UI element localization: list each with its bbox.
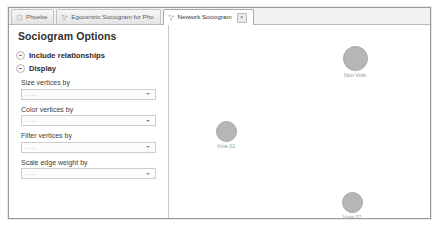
section-label: Include relationships: [29, 51, 105, 60]
chevron-down-icon[interactable]: [144, 90, 152, 99]
tab-phoebe[interactable]: Phoebe: [11, 9, 54, 24]
chevron-down-icon[interactable]: [144, 143, 152, 152]
field-scale-edge-weight-by: Scale edge weight by ....: [9, 159, 168, 180]
network-icon: [168, 14, 175, 21]
node-circle[interactable]: [343, 46, 368, 71]
sociogram-options-sidebar: Sociogram Options Include relationships …: [9, 25, 169, 218]
section-label: Display: [29, 64, 56, 73]
tab-label: Network Sociogram: [178, 14, 232, 20]
scale-edge-weight-select[interactable]: ....: [21, 168, 156, 179]
application-window: Phoebe Egocentric Sociogram for Pho Netw…: [8, 7, 431, 219]
tab-bar: Phoebe Egocentric Sociogram for Pho Netw…: [9, 8, 430, 25]
select-value: ....: [26, 117, 37, 124]
color-vertices-select[interactable]: ....: [21, 115, 156, 126]
graph-node[interactable]: Vote 02: [342, 192, 363, 218]
close-icon[interactable]: ×: [237, 13, 247, 23]
tab-egocentric-sociogram[interactable]: Egocentric Sociogram for Pho: [56, 9, 160, 24]
sociogram-canvas[interactable]: Non Vote Vote 01 Vote 02: [169, 25, 430, 218]
select-value: ....: [26, 91, 37, 98]
field-label: Size vertices by: [21, 79, 156, 86]
chevron-collapse-icon[interactable]: [16, 64, 25, 73]
page-title: Sociogram Options: [9, 30, 168, 42]
node-label: Vote 01: [217, 144, 235, 149]
tab-network-sociogram[interactable]: Network Sociogram ×: [163, 9, 254, 25]
chevron-collapse-icon[interactable]: [16, 51, 25, 60]
chevron-down-icon[interactable]: [144, 116, 152, 125]
field-label: Color vertices by: [21, 106, 156, 113]
window-body: Sociogram Options Include relationships …: [9, 25, 430, 218]
filter-vertices-select[interactable]: ....: [21, 142, 156, 153]
node-circle[interactable]: [216, 121, 237, 142]
field-label: Filter vertices by: [21, 132, 156, 139]
field-size-vertices-by: Size vertices by ....: [9, 79, 168, 100]
node-label: Non Vote: [344, 73, 366, 78]
select-value: ....: [26, 144, 37, 151]
section-display[interactable]: Display: [9, 64, 168, 73]
network-icon: [61, 14, 68, 21]
tab-label: Phoebe: [26, 14, 47, 20]
node-label: Vote 02: [343, 215, 361, 219]
circle-icon: [16, 14, 23, 21]
section-include-relationships[interactable]: Include relationships: [9, 51, 168, 60]
field-color-vertices-by: Color vertices by ....: [9, 106, 168, 127]
chevron-down-icon[interactable]: [144, 169, 152, 178]
graph-node[interactable]: Non Vote: [343, 46, 368, 78]
select-value: ....: [26, 170, 37, 177]
size-vertices-select[interactable]: ....: [21, 89, 156, 100]
node-circle[interactable]: [342, 192, 363, 213]
field-filter-vertices-by: Filter vertices by ....: [9, 132, 168, 153]
field-label: Scale edge weight by: [21, 159, 156, 166]
tab-label: Egocentric Sociogram for Pho: [71, 14, 153, 20]
graph-node[interactable]: Vote 01: [216, 121, 237, 149]
